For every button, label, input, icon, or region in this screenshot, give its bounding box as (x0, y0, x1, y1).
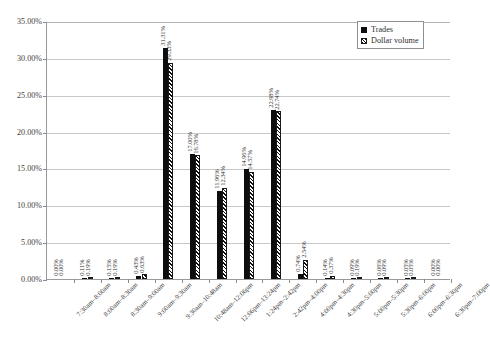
bar-dollar-volume (195, 155, 200, 279)
bar-value-label: 14.57% (247, 150, 254, 170)
bar-value-label: 0.00% (435, 260, 442, 277)
y-axis-tick-label: 30.00% (17, 55, 42, 63)
bar-value-label: 16.78% (193, 134, 200, 154)
bar-group: 0.15%0.19% (109, 22, 120, 279)
bar-trades (405, 278, 410, 279)
y-axis-tick-mark (43, 133, 47, 134)
y-axis-tick-mark (43, 169, 47, 170)
bar-value-label: 0.00% (58, 260, 65, 277)
legend-swatch-icon (361, 38, 367, 44)
plot-area: 0.00%0.00%0.11%0.19%0.15%0.19%0.43%0.63%… (46, 22, 450, 280)
legend-label: Trades (371, 25, 393, 34)
legend-swatch-icon (361, 27, 367, 33)
y-axis-tick-mark (43, 206, 47, 207)
bar-group: 17.00%16.78% (190, 22, 201, 279)
bar-trades (217, 191, 222, 279)
bar-trades (109, 278, 114, 279)
y-axis-tick-label: 5.00% (21, 239, 42, 247)
y-axis-tick-mark (43, 22, 47, 23)
bar-dollar-volume (142, 274, 147, 279)
bar-group: 14.96%14.57% (244, 22, 255, 279)
bar-dollar-volume (384, 277, 389, 279)
bar-dollar-volume (88, 277, 93, 279)
bar-value-label: 2.54% (301, 242, 308, 259)
bar-value-label: 0.19% (112, 259, 119, 276)
bar-dollar-volume (411, 277, 416, 279)
y-axis-tick-label: 15.00% (17, 165, 42, 173)
bar-dollar-volume (222, 188, 227, 279)
bar-value-label: 0.19% (355, 259, 362, 276)
chart-legend: Trades Dollar volume (357, 21, 424, 49)
x-axis-tick-mark (451, 279, 452, 283)
bar-group: 22.98%22.74% (271, 22, 282, 279)
bar-dollar-volume (303, 260, 308, 279)
bar-group: 0.00%0.00% (432, 22, 443, 279)
bar-value-label: 0.63% (139, 256, 146, 273)
bar-trades (271, 110, 276, 279)
legend-item-trades: Trades (361, 24, 419, 35)
bar-value-label: 29.33% (166, 41, 173, 61)
y-axis-tick-mark (43, 243, 47, 244)
y-axis-tick-label: 20.00% (17, 129, 42, 137)
bar-trades (325, 278, 330, 279)
y-axis-tick-mark (43, 96, 47, 97)
bar-group: 0.43%0.63% (136, 22, 147, 279)
y-axis-tick-label: 10.00% (17, 202, 42, 210)
y-axis-tick-mark (43, 59, 47, 60)
bar-trades (244, 169, 249, 279)
bar-group: 0.09%0.19% (351, 22, 362, 279)
bar-value-label: 0.37% (328, 258, 335, 275)
bar-dollar-volume (357, 277, 362, 279)
bar-dollar-volume (168, 63, 173, 279)
bar-group: 0.05%0.05% (405, 22, 416, 279)
bar-trades (82, 278, 87, 279)
bar-trades (298, 274, 303, 279)
bar-dollar-volume (115, 277, 120, 279)
bar-dollar-volume (276, 111, 281, 279)
bar-group: 11.96%12.34% (217, 22, 228, 279)
bar-value-label: 22.74% (274, 90, 281, 110)
bar-value-label: 12.34% (220, 166, 227, 186)
bar-trades (136, 276, 141, 279)
bar-value-label: 0.09% (382, 260, 389, 277)
bar-group: 0.06%0.09% (378, 22, 389, 279)
legend-item-dollar-volume: Dollar volume (361, 35, 419, 46)
x-axis: 7:30am–8:00am8:00am–8:30am8:30am–9:00am9… (46, 281, 450, 353)
y-axis: 0.00%5.00%10.00%15.00%20.00%25.00%30.00%… (0, 0, 46, 353)
bar-dollar-volume (330, 276, 335, 279)
bar-trades (163, 48, 168, 279)
bar-trades (190, 154, 195, 279)
bar-group: 0.74%2.54% (298, 22, 309, 279)
bar-value-label: 0.19% (85, 259, 92, 276)
y-axis-tick-label: 0.00% (21, 276, 42, 284)
y-axis-tick-label: 25.00% (17, 92, 42, 100)
bar-group: 0.14%0.37% (325, 22, 336, 279)
bar-group: 31.31%29.33% (163, 22, 174, 279)
bar-dollar-volume (249, 172, 254, 279)
y-axis-tick-label: 35.00% (17, 18, 42, 26)
legend-label: Dollar volume (371, 36, 419, 45)
bar-trades (378, 278, 383, 279)
bar-group: 0.11%0.19% (82, 22, 93, 279)
bar-trades (351, 278, 356, 279)
bar-group: 0.00%0.00% (55, 22, 66, 279)
bar-value-label: 0.05% (409, 260, 416, 277)
